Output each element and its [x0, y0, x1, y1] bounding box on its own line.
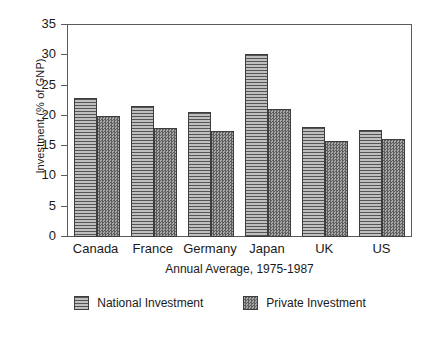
bar-private [97, 116, 120, 237]
legend-label: Private Investment [266, 296, 365, 310]
legend-entry: Private Investment [243, 296, 365, 310]
y-axis-tick-label: 10 [0, 167, 56, 183]
bar-group [68, 25, 125, 237]
bar-national [74, 98, 97, 237]
y-axis-tick-label: 0 [0, 228, 56, 244]
y-axis-tick-mark [61, 145, 67, 146]
legend-swatch-private-icon [243, 296, 258, 310]
legend-label: National Investment [97, 296, 203, 310]
y-axis-tick-label: 35 [0, 16, 56, 32]
x-axis-tick-label: Japan [239, 241, 296, 257]
bar-national [131, 106, 154, 237]
y-axis-tick-mark [61, 54, 67, 55]
y-axis-tick-mark [61, 175, 67, 176]
bar-group [182, 25, 239, 237]
y-axis-tick-label: 5 [0, 198, 56, 214]
bar-group [240, 25, 297, 237]
bar-national [359, 130, 382, 237]
bar-series-container [68, 25, 411, 237]
bar-private [382, 139, 405, 237]
y-axis-tick-mark [61, 115, 67, 116]
bar-national [245, 54, 268, 237]
bar-group [354, 25, 411, 237]
y-axis-tick-label: 30 [0, 46, 56, 62]
x-axis-tick-label: US [353, 241, 410, 257]
y-axis-tick-mark [61, 85, 67, 86]
chart-legend: National InvestmentPrivate Investment [0, 296, 440, 310]
y-axis-tick-label: 25 [0, 77, 56, 93]
bar-national [302, 127, 325, 237]
y-axis-tick-label: 20 [0, 107, 56, 123]
bar-group [297, 25, 354, 237]
y-axis-tick-mark [61, 24, 67, 25]
x-axis-tick-label: UK [296, 241, 353, 257]
bar-national [188, 112, 211, 237]
y-axis-tick-label: 15 [0, 137, 56, 153]
bar-private [268, 109, 291, 237]
bar-private [211, 131, 234, 237]
x-axis-title: Annual Average, 1975-1987 [67, 261, 412, 277]
x-axis-tick-labels: CanadaFranceGermanyJapanUKUS [67, 241, 412, 259]
bar-chart-figure: Investment (% of GNP) 05101520253035 Can… [0, 0, 440, 341]
y-axis-tick-mark [61, 236, 67, 237]
legend-swatch-national-icon [74, 296, 89, 310]
x-axis-tick-label: France [124, 241, 181, 257]
y-axis-tick-mark [61, 206, 67, 207]
legend-entry: National Investment [74, 296, 203, 310]
bar-private [325, 141, 348, 237]
x-axis-tick-label: Canada [67, 241, 124, 257]
bar-group [125, 25, 182, 237]
bar-private [154, 128, 177, 237]
x-axis-tick-label: Germany [181, 241, 238, 257]
